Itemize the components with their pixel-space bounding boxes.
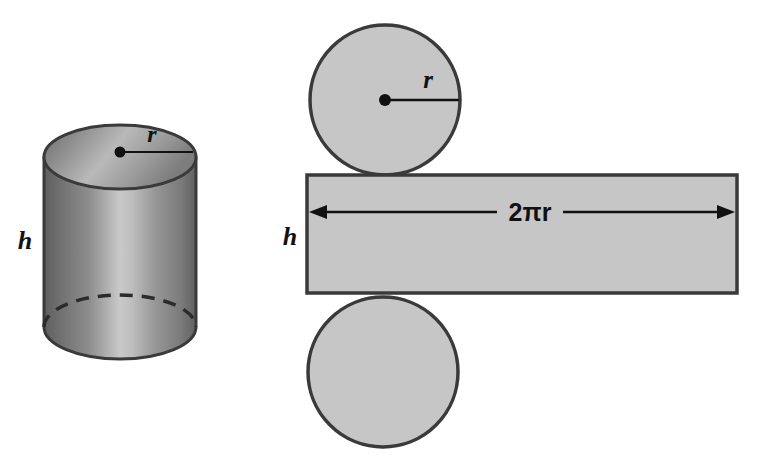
net-bottom-circle (308, 297, 458, 447)
cylinder-height-label: h (18, 226, 32, 255)
net-lateral-rectangle (307, 175, 737, 293)
net-rectangle-group: 2πr h (283, 175, 737, 293)
cylinder-net: r 2πr h (283, 25, 737, 447)
cylinder-solid: r h (18, 121, 196, 359)
net-bottom-circle-group (308, 297, 458, 447)
cylinder-radius-label: r (147, 121, 157, 147)
net-top-circle-center-dot (379, 94, 391, 106)
cylinder-net-diagram: r h r 2πr (0, 0, 763, 476)
figure-canvas: r h r 2πr (0, 0, 763, 476)
net-rectangle-width-label: 2πr (509, 198, 552, 226)
cylinder-center-dot (115, 147, 126, 158)
net-rectangle-height-label: h (283, 222, 297, 251)
net-top-circle-group: r (310, 25, 460, 175)
net-top-circle-radius-label: r (423, 66, 433, 93)
